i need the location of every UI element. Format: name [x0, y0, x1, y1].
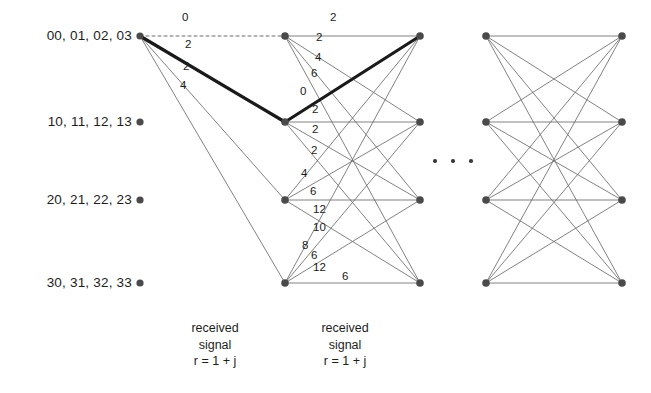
branch-metric-stage2_metrics-9: 6 — [310, 186, 316, 198]
node-c2-r3[interactable] — [416, 279, 424, 287]
node-c0-r3[interactable] — [136, 279, 143, 286]
branch-metric-stage2_metrics-0: 2 — [330, 12, 336, 24]
caption-1-line-0: received — [255, 320, 435, 337]
node-c0-r1[interactable] — [136, 118, 143, 125]
branch-metric-stage2_metrics-10: 12 — [313, 204, 326, 216]
survivor-segment-0 — [140, 36, 285, 122]
branch-metric-stage1_metrics-1: 2 — [185, 39, 191, 51]
branch-metric-stage2_metrics-5: 2 — [312, 104, 318, 116]
node-c2-r1[interactable] — [416, 118, 424, 126]
branch-metric-stage2_metrics-14: 12 — [313, 262, 326, 274]
node-c2-r2[interactable] — [416, 196, 424, 204]
branch-metric-stage2_metrics-6: 2 — [312, 124, 318, 136]
ellipsis-dot-2 — [469, 159, 473, 163]
node-c4-r0[interactable] — [618, 32, 626, 40]
branch-metric-stage2_metrics-4: 0 — [300, 86, 306, 98]
ellipsis-dot-0 — [433, 159, 437, 163]
node-c0-r2[interactable] — [136, 196, 143, 203]
state-label-1: 10, 11, 12, 13 — [48, 114, 132, 129]
branch-metric-stage2_metrics-7: 2 — [311, 145, 317, 157]
trellis-nodes — [136, 32, 625, 287]
branch-metric-stage2_metrics-13: 6 — [311, 250, 317, 262]
caption-1: receivedsignalr = 1 + j — [255, 320, 435, 370]
node-c3-r2[interactable] — [482, 196, 490, 204]
node-c2-r0[interactable] — [416, 32, 424, 40]
node-c1-r3[interactable] — [281, 279, 289, 287]
branch-metric-stage2_metrics-3: 6 — [311, 68, 317, 80]
branch-metric-stage2_metrics-1: 2 — [316, 32, 322, 44]
trellis-edges — [140, 36, 622, 283]
branch-metric-stage1_metrics-3: 4 — [180, 80, 186, 92]
branch-metric-stage2_metrics-2: 4 — [315, 52, 321, 64]
state-label-3: 30, 31, 32, 33 — [47, 275, 132, 290]
node-c1-r2[interactable] — [281, 196, 289, 204]
branch-metric-stage2_metrics-15: 6 — [342, 271, 348, 283]
node-c4-r2[interactable] — [618, 196, 626, 204]
node-c1-r0[interactable] — [281, 32, 289, 40]
edge-stage1-0-3 — [140, 36, 285, 283]
branch-metric-stage1_metrics-2: 2 — [183, 61, 189, 73]
node-c3-r3[interactable] — [482, 279, 490, 287]
branch-metric-stage2_metrics-11: 10 — [313, 222, 326, 234]
node-c3-r0[interactable] — [482, 32, 490, 40]
branch-metric-stage2_metrics-8: 4 — [301, 168, 307, 180]
node-c4-r1[interactable] — [618, 118, 626, 126]
state-label-2: 20, 21, 22, 23 — [47, 192, 132, 207]
ellipsis-dot-1 — [451, 159, 455, 163]
node-c1-r1[interactable] — [281, 118, 289, 126]
node-c4-r3[interactable] — [618, 279, 626, 287]
node-c0-r0[interactable] — [136, 32, 143, 39]
edge-stage1-0-2 — [140, 36, 285, 200]
caption-1-line-2: r = 1 + j — [255, 353, 435, 370]
branch-metric-stage2_metrics-12: 8 — [302, 240, 308, 252]
node-c3-r1[interactable] — [482, 118, 490, 126]
caption-1-line-1: signal — [255, 337, 435, 354]
branch-metric-stage1_metrics-0: 0 — [182, 12, 188, 24]
state-label-0: 00, 01, 02, 03 — [47, 28, 132, 43]
